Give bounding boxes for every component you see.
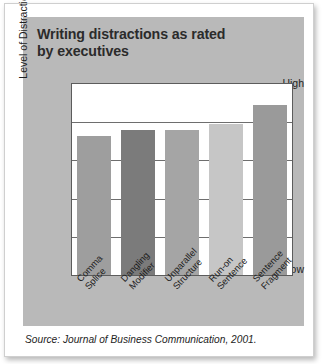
bar-4: [253, 105, 287, 275]
bar-1: [121, 130, 155, 275]
bar-series: [72, 84, 292, 275]
bar-0: [77, 136, 111, 275]
chart-title-line-1: Writing distractions as rated: [37, 26, 289, 43]
chart-panel: Writing distractions as rated by executi…: [23, 17, 304, 326]
chart-title-line-2: by executives: [37, 43, 289, 60]
figure-page: Writing distractions as rated by executi…: [4, 3, 314, 357]
page-title: Writing distractions as rated by executi…: [37, 26, 289, 59]
source-caption: Source: Journal of Business Communicatio…: [25, 334, 257, 345]
plot-area: [71, 83, 293, 276]
y-axis-label: Level of Distraction: [17, 0, 29, 109]
x-axis-labels: CommaSpliceDanglingModifierUnparallelStr…: [71, 277, 293, 339]
